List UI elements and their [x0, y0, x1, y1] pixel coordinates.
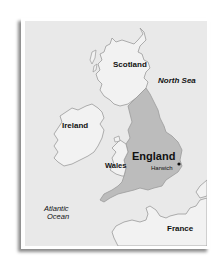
label-harwich: Harwich	[151, 165, 173, 171]
label-ocean: Ocean	[47, 212, 69, 221]
label-england: England	[132, 150, 175, 162]
map-canvas: Scotland North Sea Ireland England Harwi…	[25, 21, 207, 246]
label-north-sea: North Sea	[158, 76, 196, 85]
label-france: France	[167, 224, 194, 233]
label-ireland: Ireland	[62, 121, 88, 130]
map-card: Scotland North Sea Ireland England Harwi…	[21, 18, 210, 249]
label-scotland: Scotland	[113, 60, 147, 69]
label-wales: Wales	[105, 161, 126, 170]
location-dot-icon	[177, 162, 180, 165]
